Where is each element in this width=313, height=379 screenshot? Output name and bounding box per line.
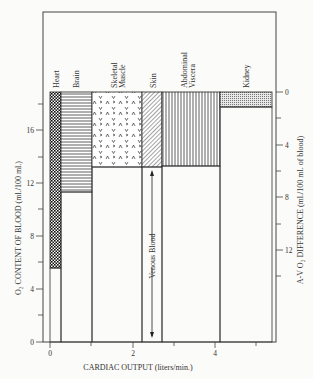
right-axis bbox=[276, 92, 283, 276]
ytick-right-8: 8 bbox=[285, 193, 289, 202]
label-muscle: Muscle bbox=[118, 64, 127, 88]
bar-kidney bbox=[220, 92, 272, 342]
ytick-left-8: 8 bbox=[30, 232, 34, 241]
label-kidney: Kidney bbox=[242, 64, 251, 88]
label-heart: Heart bbox=[52, 69, 61, 88]
left-axis bbox=[36, 104, 43, 342]
label-viscera: Viscera bbox=[188, 64, 197, 88]
ytick-right-12: 12 bbox=[285, 246, 293, 255]
ylabel-right: A-V O₂ DIFFERENCE (ml./100 ml. of blood) bbox=[296, 135, 305, 284]
xtick-2: 2 bbox=[131, 349, 135, 358]
bar-abdominal-viscera bbox=[162, 92, 220, 342]
xtick-0: 0 bbox=[48, 349, 52, 358]
ytick-left-12: 12 bbox=[27, 179, 35, 188]
venous-blood-label: Venous Blood bbox=[148, 233, 157, 278]
ytick-right-0: 0 bbox=[285, 88, 289, 97]
ytick-left-16: 16 bbox=[27, 126, 35, 135]
xtick-4: 4 bbox=[213, 349, 217, 358]
ytick-left-4: 4 bbox=[30, 285, 34, 294]
x-axis bbox=[50, 342, 256, 348]
bar-skeletal-muscle bbox=[92, 92, 142, 342]
bar-brain bbox=[61, 92, 92, 342]
label-skin: Skin bbox=[149, 73, 158, 88]
ytick-left-0: 0 bbox=[30, 338, 34, 347]
venous-blood-annotation: Venous Blood bbox=[148, 170, 157, 338]
bar-heart bbox=[50, 92, 61, 342]
label-brain: Brain bbox=[72, 70, 81, 88]
xlabel: CARDIAC OUTPUT (liters/min.) bbox=[83, 363, 193, 372]
fick-chart: Venous Blood Heart Brain Skeletal Muscle… bbox=[0, 0, 313, 379]
ytick-right-4: 4 bbox=[285, 141, 289, 150]
ylabel-left: O₂ CONTENT OF BLOOD (ml./100 ml.) bbox=[14, 161, 23, 295]
